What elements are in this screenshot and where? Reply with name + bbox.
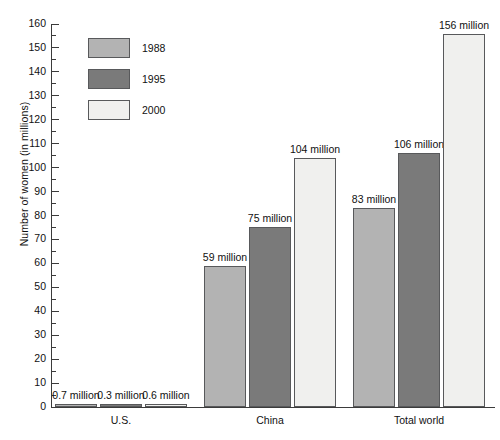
y-tick-label: 80 <box>0 209 46 221</box>
bar <box>294 158 336 407</box>
bar <box>55 404 97 407</box>
group-label: U.S. <box>55 414 187 426</box>
bar <box>249 227 291 407</box>
bar-value-label: 104 million <box>280 143 350 155</box>
bar-chart: Number of women (in millions) 0102030405… <box>0 0 500 440</box>
bar-value-label: 156 million <box>429 19 499 31</box>
y-tick-label: 150 <box>0 41 46 53</box>
bar <box>398 153 440 407</box>
y-tick-label: 20 <box>0 352 46 364</box>
bar-value-label: 0.6 million <box>131 389 201 401</box>
y-tick-label: 10 <box>0 376 46 388</box>
y-tick-label: 120 <box>0 113 46 125</box>
y-tick-label: 0 <box>0 400 46 412</box>
legend-label: 2000 <box>142 104 165 116</box>
y-tick-label: 100 <box>0 161 46 173</box>
legend-swatch <box>88 69 130 89</box>
bar <box>204 266 246 407</box>
y-tick-label: 140 <box>0 65 46 77</box>
y-tick-label: 70 <box>0 232 46 244</box>
legend-label: 1988 <box>142 42 165 54</box>
y-tick-label: 110 <box>0 137 46 149</box>
bar <box>443 34 485 407</box>
y-tick-label: 90 <box>0 185 46 197</box>
y-tick-label: 160 <box>0 17 46 29</box>
y-tick-label: 130 <box>0 89 46 101</box>
legend-label: 1995 <box>142 73 165 85</box>
y-tick-label: 40 <box>0 304 46 316</box>
group-label: China <box>204 414 336 426</box>
bar <box>100 404 142 407</box>
y-tick-label: 60 <box>0 256 46 268</box>
legend-swatch <box>88 100 130 120</box>
y-tick-label: 50 <box>0 280 46 292</box>
group-label: Total world <box>353 414 485 426</box>
bar <box>353 208 395 407</box>
legend-swatch <box>88 38 130 58</box>
y-tick-label: 30 <box>0 328 46 340</box>
bar <box>145 404 187 407</box>
x-axis-line <box>51 407 495 408</box>
